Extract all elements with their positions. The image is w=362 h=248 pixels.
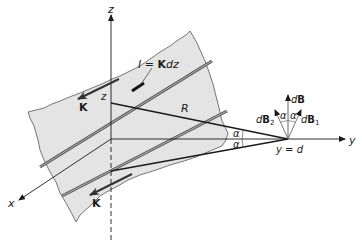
- dz-symbol: dz: [166, 58, 179, 71]
- current-element-label: I = Kdz: [138, 58, 179, 71]
- dB1-label: dB1: [301, 114, 319, 127]
- alpha-label-upper: α: [233, 128, 240, 139]
- alpha-arc-upper: [242, 130, 243, 139]
- field-point-label: y = d: [275, 144, 304, 155]
- current-sheet-diagram: z y x I = Kdz K K z R α α α α dB dB1 dB2…: [0, 0, 362, 248]
- alpha-label-field-right: α: [290, 110, 297, 121]
- z-axis-label: z: [107, 3, 114, 16]
- dB2-label: dB2: [256, 114, 274, 127]
- z-point-label: z: [100, 91, 107, 102]
- dB-label: dB: [291, 94, 305, 105]
- K-label-lower: K: [92, 197, 101, 210]
- y-axis-label: y: [348, 134, 356, 147]
- R-label: R: [181, 102, 189, 115]
- alpha-label-field-left: α: [280, 110, 287, 121]
- K-label-upper: K: [79, 101, 88, 114]
- equals-sign: =: [141, 58, 157, 71]
- x-axis-label: x: [7, 197, 15, 210]
- alpha-label-lower: α: [233, 139, 240, 150]
